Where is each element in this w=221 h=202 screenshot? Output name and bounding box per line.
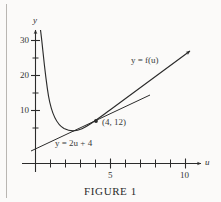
- tangent-point-label: (4, 12): [102, 118, 126, 127]
- y-tick-label-10: 10: [20, 106, 29, 115]
- function-curve: [41, 30, 191, 131]
- curve-equation-label: y = f(u): [131, 56, 159, 65]
- figure-caption: FIGURE 1: [84, 186, 137, 197]
- line-equation-label: y = 2u + 4: [55, 139, 92, 148]
- x-tick-label-5: 5: [108, 171, 113, 180]
- figure-caption-wrap: FIGURE 1: [0, 181, 221, 199]
- y-tick-label-20: 20: [20, 71, 29, 80]
- y-axis-label: y: [33, 16, 37, 25]
- tangent-point-marker: [94, 119, 98, 123]
- figure-1: 30 20 10 5 10 y u y = f(u) y = 2u + 4 (4…: [0, 0, 221, 202]
- x-tick-label-10: 10: [180, 171, 189, 180]
- y-tick-label-30: 30: [20, 36, 29, 45]
- x-axis-label: u: [205, 158, 210, 167]
- x-axis: [22, 159, 201, 169]
